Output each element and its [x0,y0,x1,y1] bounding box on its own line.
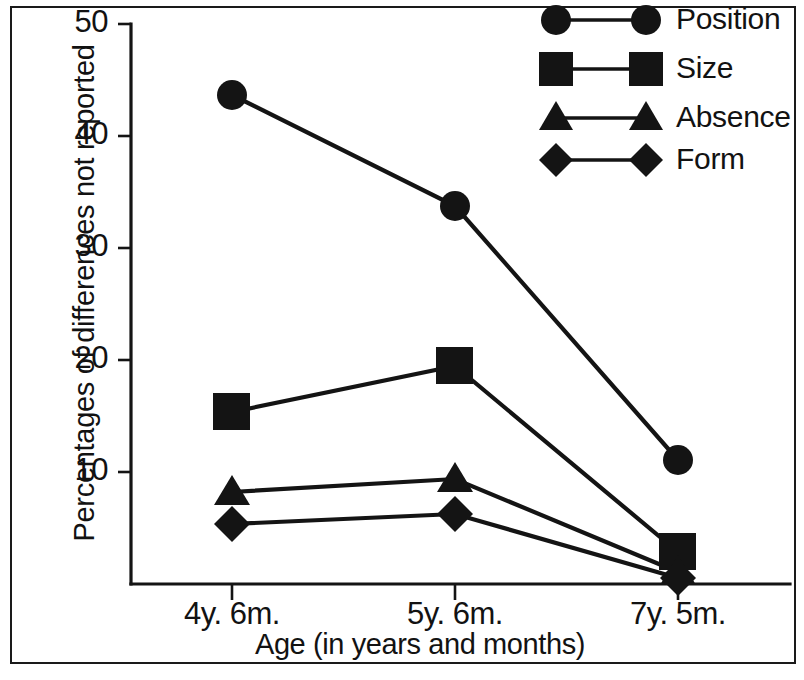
data-point-form-1 [214,506,250,542]
y-tick-label-50: 50 [38,4,108,40]
data-point-position-1 [217,80,247,110]
x-tick-label-2: 5y. 6m. [365,596,545,632]
legend-glyph-form [539,143,663,177]
data-point-position-3 [663,445,693,475]
data-point-position-2 [440,191,470,221]
x-tick-label-3: 7y. 5m. [588,596,768,632]
chart-figure: 50 40 30 20 10 4y. 6m. 5y. 6m. 7y. 5m. P… [0,0,804,680]
series-line-position [232,95,678,460]
x-tick-label-1: 4y. 6m. [142,596,322,632]
data-point-absence-2 [437,462,473,492]
legend-label-absence: Absence [676,100,791,134]
legend-label-size: Size [676,51,733,85]
data-point-size-1 [213,393,250,430]
legend-glyph-position [541,5,661,35]
data-point-form-2 [437,496,473,532]
x-axis-title: Age (in years and months) [150,628,690,661]
legend-glyph-absence [539,101,663,130]
legend-label-form: Form [676,142,745,176]
legend-glyph-size [539,52,663,86]
legend-label-position: Position [676,2,780,36]
data-point-size-2 [436,347,473,384]
y-axis-title: Percentages of differences not reported [68,72,101,542]
